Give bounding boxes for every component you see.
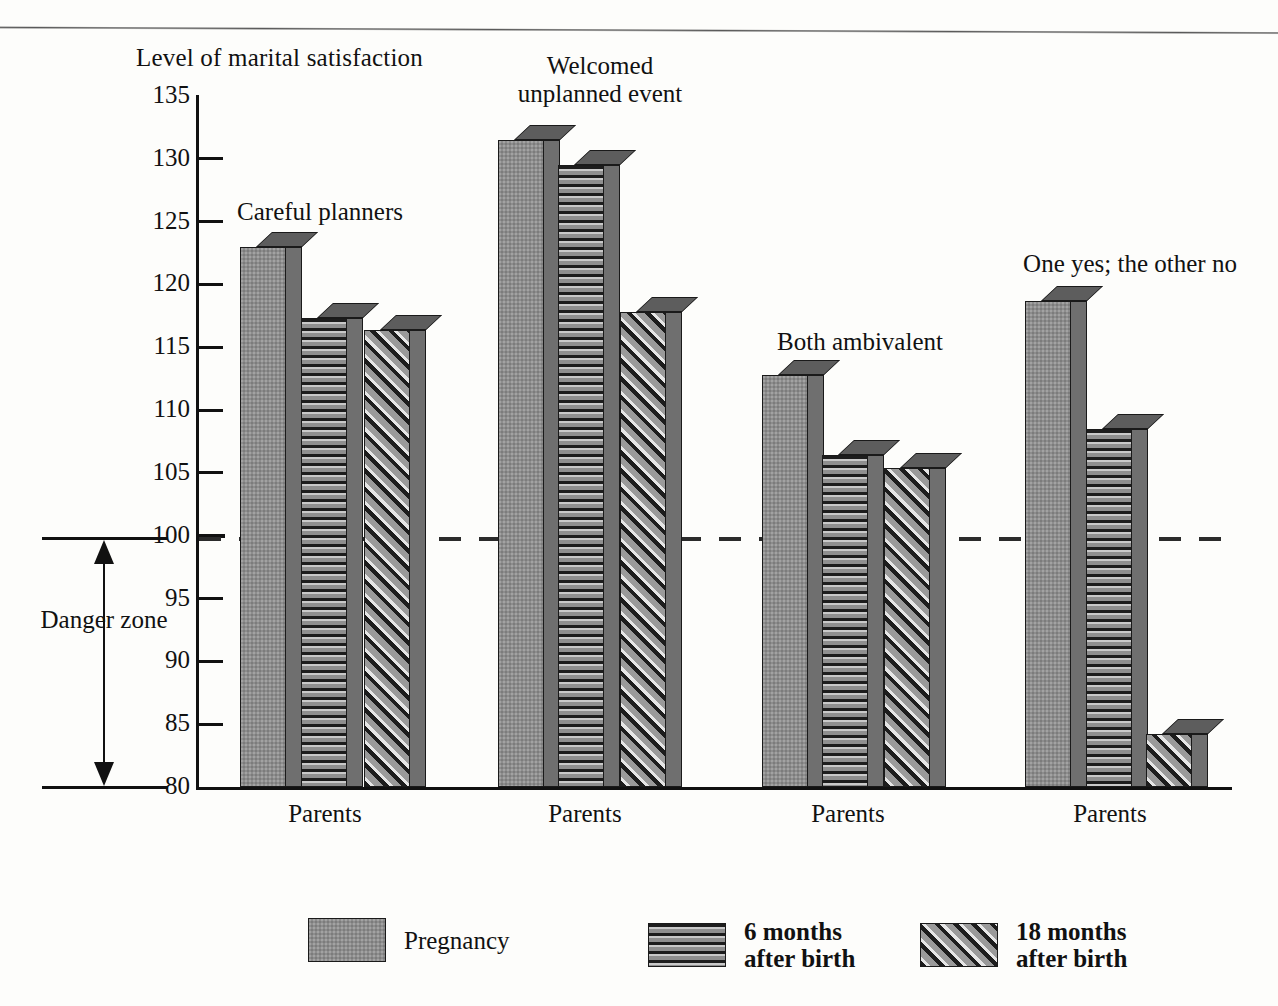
danger-zone-arrow-shaft [103,560,105,764]
y-tick-label-90: 90 [130,647,190,672]
bar-side-face [410,330,426,787]
y-tick-label-105: 105 [130,459,190,484]
bar-side-face [930,468,946,787]
bar-group4-series1 [1025,286,1087,787]
group-caption-1: Careful planners [150,198,490,226]
group-caption-2: Welcomed unplanned event [430,52,770,108]
legend-item-1[interactable]: Pregnancy [308,918,510,962]
arrow-up-icon [94,540,114,564]
bar-front-face [301,318,347,787]
y-tick-label-115: 115 [130,333,190,358]
bar-group3-series3 [884,453,946,787]
bar-side-face [868,455,884,787]
bar-top-face [1102,414,1164,429]
bar-top-face [778,360,840,375]
legend-swatch-solid-stipple [308,918,386,962]
bar-front-face [240,247,286,787]
bar-top-face [380,315,442,330]
bar-top-face [514,125,576,140]
bar-side-face [666,312,682,787]
danger-zone-label: Danger zone [20,606,188,634]
bar-group4-series2 [1086,414,1148,787]
legend-label-3: 18 months after birth [1016,918,1127,972]
bar-front-face [762,375,808,787]
bar-side-face [286,247,302,787]
y-tick-label-85: 85 [130,710,190,735]
bar-front-face [884,468,930,787]
bar-front-face [498,140,544,787]
bar-group4-series3 [1146,719,1208,787]
bar-side-face [347,318,363,787]
bar-top-face [256,232,318,247]
bar-group1-series2 [301,303,363,787]
group-caption-4: One yes; the other no [930,250,1278,278]
bar-front-face [1146,734,1192,787]
legend-label-2: 6 months after birth [744,918,855,972]
x-axis-line [196,787,1232,790]
y-tick-85 [199,723,223,726]
y-tick-label-120: 120 [130,270,190,295]
danger-zone-bottom-rule [42,786,168,789]
y-tick-120 [199,283,223,286]
legend-swatch-horizontal-lines [648,923,726,967]
y-tick-label-110: 110 [130,396,190,421]
marital-satisfaction-bar-chart: Level of marital satisfaction 1351301251… [0,0,1278,1006]
bar-top-face [636,297,698,312]
arrow-down-icon [94,762,114,786]
bar-side-face [1192,734,1208,787]
y-tick-130 [199,157,223,160]
bar-front-face [558,165,604,787]
bar-front-face [364,330,410,787]
y-tick-105 [199,471,223,474]
bar-top-face [1162,719,1224,734]
legend-item-2[interactable]: 6 months after birth [648,918,855,972]
x-axis-label-1: Parents [225,800,425,828]
bar-top-face [1041,286,1103,301]
legend-item-3[interactable]: 18 months after birth [920,918,1127,972]
bar-side-face [1071,301,1087,787]
bar-group3-series2 [822,440,884,787]
y-tick-label-100: 100 [130,522,190,547]
y-tick-95 [199,597,223,600]
y-tick-label-130: 130 [130,145,190,170]
y-tick-label-135: 135 [130,82,190,107]
x-axis-label-4: Parents [1010,800,1210,828]
bar-front-face [1086,429,1132,787]
bar-top-face [900,453,962,468]
bar-top-face [574,150,636,165]
legend-label-1: Pregnancy [404,927,510,954]
bar-group2-series1 [498,125,560,787]
y-tick-110 [199,409,223,412]
bar-group3-series1 [762,360,824,787]
bar-front-face [822,455,868,787]
y-tick-90 [199,660,223,663]
bar-group2-series3 [620,297,682,787]
bar-side-face [604,165,620,787]
group-caption-3: Both ambivalent [690,328,1030,356]
x-axis-label-2: Parents [485,800,685,828]
bar-group2-series2 [558,150,620,787]
bar-front-face [1025,301,1071,787]
chart-legend: Pregnancy6 months after birth18 months a… [0,918,1278,998]
bar-group1-series3 [364,315,426,787]
bar-group1-series1 [240,232,302,787]
y-tick-115 [199,346,223,349]
bar-front-face [620,312,666,787]
legend-swatch-diagonal-hatch [920,923,998,967]
x-axis-label-3: Parents [748,800,948,828]
y-axis-title: Level of marital satisfaction [136,44,423,72]
